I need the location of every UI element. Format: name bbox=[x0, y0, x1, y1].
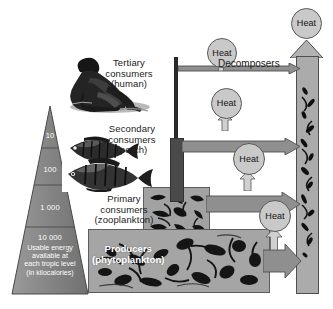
heat-bubble-primary: Heat bbox=[233, 143, 265, 175]
heat-bubble-top: Heat bbox=[291, 8, 322, 39]
secondary-consumers-label: Secondary consumers (perch) bbox=[98, 124, 166, 156]
producers-label: Producers (phytoplankton) bbox=[92, 243, 164, 265]
pyramid-caption: Usable energy available at each tropic l… bbox=[8, 244, 92, 277]
heat-bubble-secondary: Heat bbox=[211, 88, 242, 119]
pyramid-value-1000: 1 000 bbox=[8, 204, 92, 212]
heat-bubble-producers: Heat bbox=[259, 200, 291, 232]
decomposers-label: Decomposers bbox=[218, 58, 280, 69]
tertiary-consumers-label: Tertiary consumers (human) bbox=[96, 58, 162, 90]
energy-flow-diagram: 10 100 1 000 10 000 Usable energy availa… bbox=[0, 0, 333, 309]
primary-consumers-label: Primary consumers (zooplankton) bbox=[88, 194, 160, 226]
pyramid-value-10000: 10 000 bbox=[8, 234, 92, 242]
